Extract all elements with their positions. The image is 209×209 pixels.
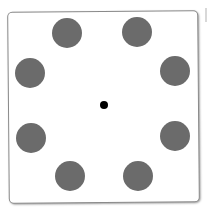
- gray-circle: [160, 121, 190, 151]
- gray-circle: [122, 17, 152, 47]
- gray-circle: [16, 123, 46, 153]
- edge-mark: [205, 8, 207, 22]
- gray-circle: [55, 161, 85, 191]
- gray-circle: [15, 58, 45, 88]
- gray-circle: [160, 56, 190, 86]
- gray-circle: [52, 18, 82, 48]
- gray-circle: [123, 161, 153, 191]
- center-dot: [100, 101, 108, 109]
